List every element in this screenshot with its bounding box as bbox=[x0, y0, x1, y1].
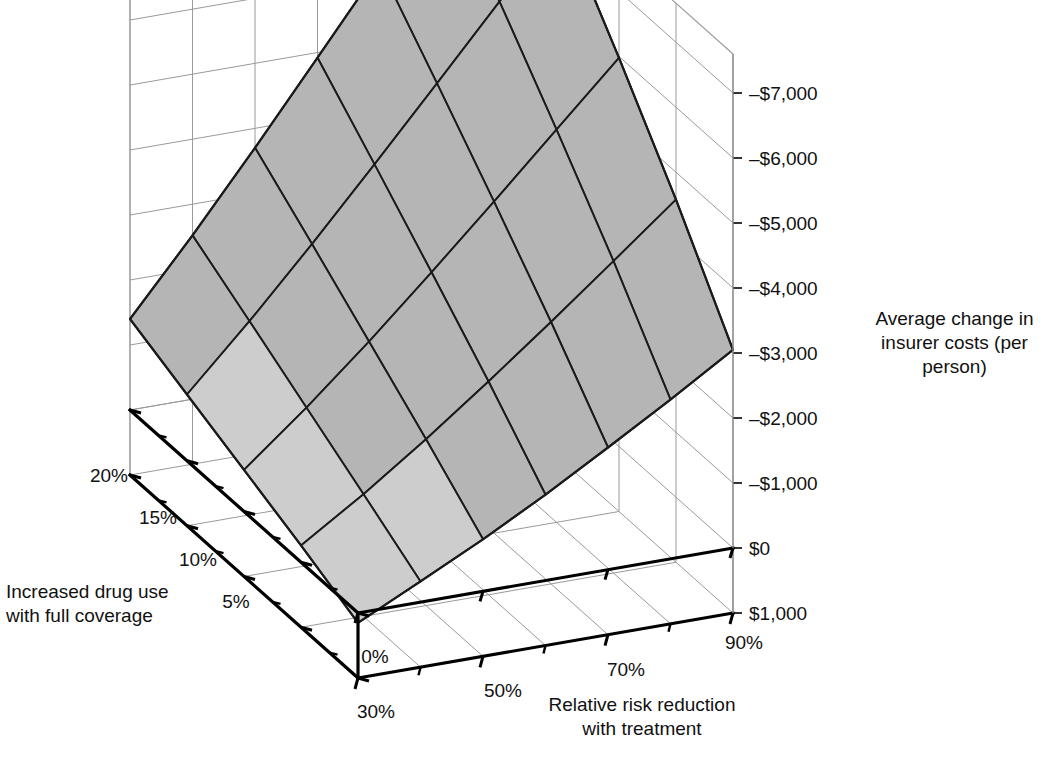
y-tick-label-3: 15% bbox=[139, 507, 177, 528]
x-axis-title: Relative risk reduction with treatment bbox=[512, 693, 772, 741]
z-axis-title: Average change in insurer costs (per per… bbox=[862, 307, 1047, 379]
z-tick-label-5: –$2,000 bbox=[749, 408, 818, 429]
z-tick-label-8: $1,000 bbox=[749, 603, 807, 624]
z-axis-title-line-2: insurer costs (per bbox=[862, 331, 1047, 355]
x-tick-label-2: 70% bbox=[607, 659, 645, 680]
x-tick-label-0: 30% bbox=[357, 701, 395, 722]
y-tick bbox=[358, 678, 369, 681]
surface-plot-3d: –$7,000–$6,000–$5,000–$4,000–$3,000–$2,0… bbox=[0, 0, 1050, 759]
y-axis-title: Increased drug use with full coverage bbox=[6, 580, 221, 628]
z-tick-label-1: –$6,000 bbox=[749, 148, 818, 169]
z-tick-label-4: –$3,000 bbox=[749, 343, 818, 364]
y-tick-label-2: 10% bbox=[179, 549, 217, 570]
z-tick-label-2: –$5,000 bbox=[749, 213, 818, 234]
y-tick-label-1: 5% bbox=[222, 591, 250, 612]
z-tick-label-7: $0 bbox=[749, 538, 770, 559]
z-tick-label-6: –$1,000 bbox=[749, 473, 818, 494]
z-axis-title-line-1: Average change in bbox=[862, 307, 1047, 331]
x-axis-title-line-2: with treatment bbox=[512, 717, 772, 741]
x-tick-label-3: 90% bbox=[725, 632, 763, 653]
y-tick-label-4: 20% bbox=[90, 465, 128, 486]
z-tick-label-3: –$4,000 bbox=[749, 278, 818, 299]
x-axis-title-line-1: Relative risk reduction bbox=[512, 693, 772, 717]
y-tick-label-0: 0% bbox=[361, 646, 389, 667]
chart-canvas: –$7,000–$6,000–$5,000–$4,000–$3,000–$2,0… bbox=[0, 0, 1050, 759]
y-axis-title-line-1: Increased drug use bbox=[6, 580, 221, 604]
z-tick-label-0: –$7,000 bbox=[749, 83, 818, 104]
z-axis-title-line-3: person) bbox=[862, 355, 1047, 379]
x-tick bbox=[355, 678, 358, 689]
y-axis-title-line-2: with full coverage bbox=[6, 604, 221, 628]
